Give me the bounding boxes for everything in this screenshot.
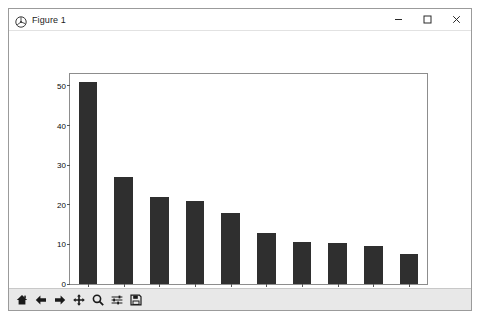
figure-canvas[interactable]: 01020304050mmercialNoiseidewalkrivewayPa… bbox=[9, 31, 471, 288]
y-axis-tick-mark bbox=[67, 165, 70, 166]
matplotlib-logo-icon bbox=[15, 14, 27, 26]
bar bbox=[364, 246, 383, 284]
configure-subplots-icon[interactable] bbox=[107, 290, 126, 309]
chart-axes: 01020304050mmercialNoiseidewalkrivewayPa… bbox=[69, 73, 428, 285]
x-axis-tick-mark bbox=[231, 284, 232, 287]
title-bar-left: Figure 1 bbox=[9, 14, 384, 26]
pan-move-icon[interactable] bbox=[69, 290, 88, 309]
window-title-text: Figure 1 bbox=[32, 15, 66, 25]
forward-arrow-icon[interactable] bbox=[50, 290, 69, 309]
figure-window: Figure 1 bbox=[8, 8, 472, 311]
bar bbox=[400, 254, 419, 284]
bar bbox=[293, 242, 312, 284]
y-axis-tick-mark bbox=[67, 125, 70, 126]
y-axis-tick-label: 30 bbox=[57, 162, 70, 170]
y-axis-tick-label: 40 bbox=[57, 122, 70, 130]
bar bbox=[114, 177, 133, 284]
zoom-magnifier-icon[interactable] bbox=[88, 290, 107, 309]
x-axis-tick-mark bbox=[409, 284, 410, 287]
x-axis-tick-mark bbox=[124, 284, 125, 287]
x-axis-tick-mark bbox=[338, 284, 339, 287]
y-axis-tick-mark bbox=[67, 244, 70, 245]
y-axis-tick-mark bbox=[67, 85, 70, 86]
x-axis-tick-mark bbox=[266, 284, 267, 287]
minimize-button[interactable] bbox=[384, 9, 413, 30]
y-axis-tick-label: 50 bbox=[57, 82, 70, 90]
x-axis-tick-mark bbox=[159, 284, 160, 287]
bar bbox=[79, 82, 98, 284]
navigation-toolbar bbox=[9, 288, 471, 310]
bar bbox=[328, 243, 347, 284]
save-floppy-icon[interactable] bbox=[126, 290, 145, 309]
y-axis-tick-label: 10 bbox=[57, 241, 70, 249]
x-axis-tick-mark bbox=[373, 284, 374, 287]
y-axis-tick-mark bbox=[67, 284, 70, 285]
plot-area: 01020304050mmercialNoiseidewalkrivewayPa… bbox=[70, 74, 427, 284]
bar bbox=[186, 201, 205, 284]
y-axis-tick-label: 20 bbox=[57, 201, 70, 209]
y-axis-tick-mark bbox=[67, 204, 70, 205]
window-controls bbox=[384, 9, 471, 30]
x-axis-tick-mark bbox=[195, 284, 196, 287]
x-axis-tick-mark bbox=[88, 284, 89, 287]
x-axis-tick-mark bbox=[302, 284, 303, 287]
window-title-bar[interactable]: Figure 1 bbox=[9, 9, 471, 31]
bar bbox=[221, 213, 240, 284]
home-icon[interactable] bbox=[12, 290, 31, 309]
bar bbox=[257, 233, 276, 285]
close-button[interactable] bbox=[442, 9, 471, 30]
bar bbox=[150, 197, 169, 284]
maximize-button[interactable] bbox=[413, 9, 442, 30]
back-arrow-icon[interactable] bbox=[31, 290, 50, 309]
screenshot-root: Figure 1 bbox=[0, 0, 482, 323]
